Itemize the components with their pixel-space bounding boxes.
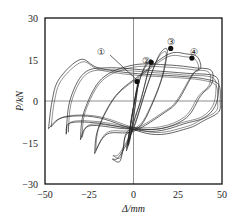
y-tick-neg15: −15: [22, 138, 38, 149]
y-tick-15: 15: [28, 55, 38, 66]
annotation-2: ②: [142, 56, 150, 66]
x-tick-50: 50: [217, 189, 227, 200]
hysteresis-loop-3: [112, 48, 167, 162]
x-tick-neg50: −50: [37, 189, 53, 200]
hysteresis-curves: [49, 48, 221, 162]
x-tick-0: 0: [131, 189, 136, 200]
annotation-1: ①: [97, 47, 105, 57]
y-tick-0: 0: [33, 96, 38, 107]
x-tick-neg25: −25: [81, 189, 97, 200]
annotation-3: ③: [167, 37, 175, 47]
y-tick-30: 30: [28, 13, 38, 24]
x-axis-label: Δ/mm: [121, 203, 145, 214]
marker-point-1: [134, 79, 139, 84]
hysteresis-chart: ① ② ③ ④ 30 15 0 −15 −30 −50 −25 0 25 50 …: [0, 0, 238, 222]
annotation-4: ④: [190, 47, 198, 57]
x-tick-25: 25: [173, 189, 183, 200]
y-axis-label: P/kN: [14, 90, 25, 112]
y-tick-neg30: −30: [22, 179, 38, 190]
